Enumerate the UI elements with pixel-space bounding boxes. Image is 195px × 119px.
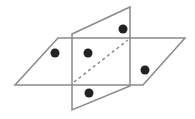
intersection-line-dashed [74, 40, 128, 82]
points-group [51, 25, 150, 98]
horizontal-plane [15, 38, 185, 85]
vertical-plane [72, 7, 130, 110]
point-1 [51, 49, 60, 58]
point-5 [85, 89, 94, 98]
point-4 [141, 66, 150, 75]
point-3 [119, 25, 128, 34]
point-2 [84, 49, 93, 58]
intersecting-planes-diagram [0, 0, 195, 119]
